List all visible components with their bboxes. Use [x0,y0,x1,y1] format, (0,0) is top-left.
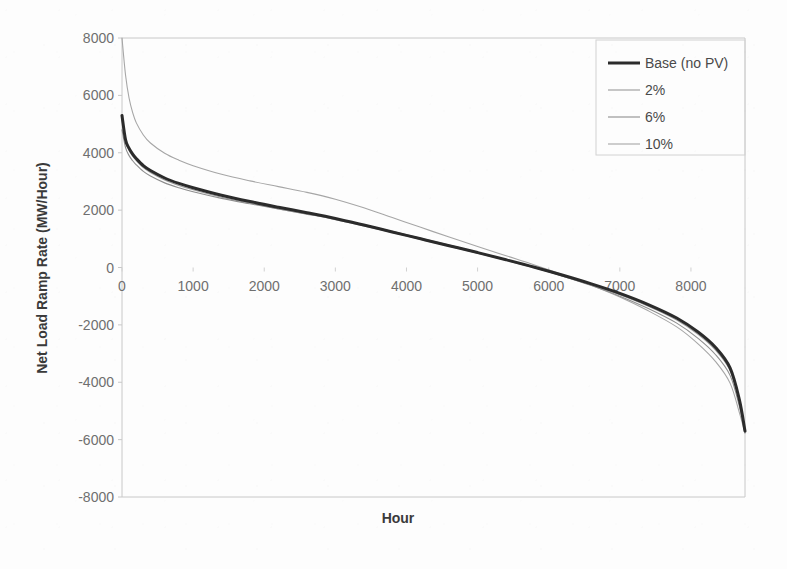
y-tick-label: -2000 [78,317,114,333]
y-tick-label: 2000 [83,202,114,218]
legend-item-6: 6% [608,109,665,125]
y-axis-title: Net Load Ramp Rate (MW/Hour) [34,162,50,374]
legend-item-10: 10% [608,136,673,152]
x-axis-tick-labels: 010002000300040005000600070008000 [118,278,707,294]
legend-item-2: 2% [608,82,665,98]
legend-label: 2% [645,82,665,98]
legend-label: 6% [645,109,665,125]
series-line-base-no-pv [122,115,745,431]
legend-label: 10% [645,136,673,152]
x-tick-label: 4000 [391,278,422,294]
y-axis-tick-labels: 80006000400020000-2000-4000-6000-8000 [78,30,114,505]
y-tick-label: 4000 [83,145,114,161]
chart-legend: Base (no PV)2%6%10% [596,40,745,155]
x-axis-tick-marks [122,268,691,272]
y-tick-label: 8000 [83,30,114,46]
series-line-6 [122,130,745,433]
x-axis-title: Hour [382,510,415,526]
legend-label: Base (no PV) [645,55,728,71]
y-tick-label: -4000 [78,374,114,390]
y-tick-label: 6000 [83,87,114,103]
x-tick-label: 3000 [320,278,351,294]
x-tick-label: 2000 [249,278,280,294]
x-tick-label: 5000 [462,278,493,294]
x-tick-label: 1000 [178,278,209,294]
x-tick-label: 8000 [675,278,706,294]
chart-canvas: 80006000400020000-2000-4000-6000-8000 01… [0,0,787,569]
x-tick-label: 6000 [533,278,564,294]
legend-entry-list: Base (no PV)2%6%10% [608,55,728,152]
y-tick-label: -6000 [78,432,114,448]
series-line-2 [122,120,745,432]
x-tick-label: 0 [118,278,126,294]
y-tick-label: -8000 [78,489,114,505]
y-axis-tick-marks [118,38,122,497]
chart-figure: 80006000400020000-2000-4000-6000-8000 01… [0,0,787,569]
plot-frame [122,38,745,497]
legend-item-base-no-pv: Base (no PV) [608,55,728,71]
y-tick-label: 0 [106,260,114,276]
